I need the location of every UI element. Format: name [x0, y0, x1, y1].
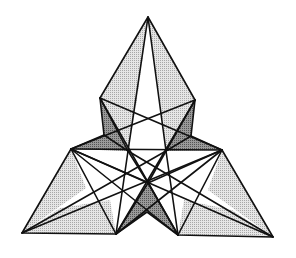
edge [71, 149, 222, 150]
geometric-star-figure [0, 0, 296, 258]
